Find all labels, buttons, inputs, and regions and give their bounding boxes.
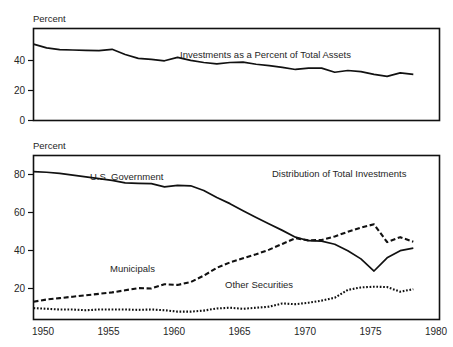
- top-panel-title: Investments as a Percent of Total Assets: [180, 49, 351, 60]
- series-label-other-securities: Other Securities: [225, 279, 293, 290]
- top-ytick-label-0: 0: [19, 115, 25, 126]
- xtick-label-1970: 1970: [294, 326, 317, 337]
- xtick-label-1960: 1960: [163, 326, 186, 337]
- top-panel: Percent 0 20 40 Investments as a Percent…: [14, 13, 440, 126]
- bottom-panel-yticks: 20 40 60 80: [14, 169, 34, 294]
- series-label-municipals: Municipals: [110, 263, 155, 274]
- top-panel-yticks: 0 20 40: [14, 55, 34, 126]
- xtick-label-1950: 1950: [32, 326, 55, 337]
- xtick-label-1975: 1975: [359, 326, 382, 337]
- chart-svg: Percent 0 20 40 Investments as a Percent…: [0, 0, 453, 347]
- xtick-label-1965: 1965: [228, 326, 251, 337]
- bottom-ytick-label-20: 20: [14, 283, 26, 294]
- bottom-ytick-label-60: 60: [14, 207, 26, 218]
- series-label-us-government: U.S. Government: [90, 171, 164, 182]
- xtick-label-1955: 1955: [97, 326, 120, 337]
- top-ytick-label-20: 20: [14, 85, 26, 96]
- figure-container: Percent 0 20 40 Investments as a Percent…: [0, 0, 453, 347]
- top-ytick-label-40: 40: [14, 55, 26, 66]
- bottom-ytick-label-40: 40: [14, 245, 26, 256]
- bottom-panel-axis-label: Percent: [33, 140, 66, 151]
- bottom-panel: Percent 20 40 60 80 1950 1955 1960 1965 …: [14, 140, 448, 337]
- bottom-panel-xticks: 1950 1955 1960 1965 1970 1975 1980: [32, 326, 448, 337]
- xtick-label-1980: 1980: [425, 326, 448, 337]
- bottom-panel-title: Distribution of Total Investments: [272, 168, 407, 179]
- bottom-ytick-label-80: 80: [14, 169, 26, 180]
- top-panel-axis-label: Percent: [33, 13, 66, 24]
